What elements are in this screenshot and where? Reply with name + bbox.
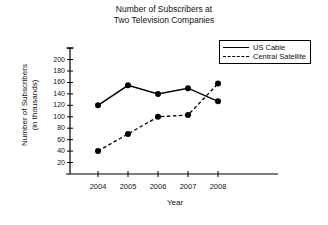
y-axis-title: Number of Subscribers (in thousands) bbox=[20, 42, 39, 168]
legend-item-central-satellite: Central Satellite bbox=[223, 52, 306, 61]
y-axis-tick-label: 180 bbox=[43, 67, 65, 74]
legend-item-us-cable: US Cable bbox=[223, 43, 306, 52]
y-axis-tick-label: 140 bbox=[43, 90, 65, 97]
y-axis-title-line-1: Number of Subscribers bbox=[20, 42, 30, 168]
y-axis-tick-label: 120 bbox=[43, 101, 65, 108]
legend-label-central-satellite: Central Satellite bbox=[253, 52, 306, 61]
x-axis-tick-label: 2008 bbox=[203, 182, 233, 191]
y-axis-tick-label: 80 bbox=[43, 124, 65, 131]
chart-figure: Number of Subscribers at Two Television … bbox=[0, 0, 328, 225]
x-axis-tick-label: 2006 bbox=[143, 182, 173, 191]
x-axis-tick-label: 2004 bbox=[83, 182, 113, 191]
y-axis-tick-label: 20 bbox=[43, 159, 65, 166]
legend-key-solid-line-icon bbox=[223, 43, 249, 52]
y-axis-tick-label: 60 bbox=[43, 136, 65, 143]
chart-legend: US Cable Central Satellite bbox=[219, 40, 311, 64]
y-axis-tick-label: 40 bbox=[43, 147, 65, 154]
y-axis-title-line-2: (in thousands) bbox=[30, 42, 40, 168]
x-axis-tick-label: 2007 bbox=[173, 182, 203, 191]
y-axis-tick-label: 200 bbox=[43, 56, 65, 63]
legend-key-dashed-line-icon bbox=[223, 52, 249, 61]
legend-label-us-cable: US Cable bbox=[253, 43, 285, 52]
y-axis-tick-label: 160 bbox=[43, 78, 65, 85]
x-axis-tick-label: 2005 bbox=[113, 182, 143, 191]
y-axis-tick-label: 100 bbox=[43, 113, 65, 120]
x-axis-title: Year bbox=[145, 198, 205, 207]
